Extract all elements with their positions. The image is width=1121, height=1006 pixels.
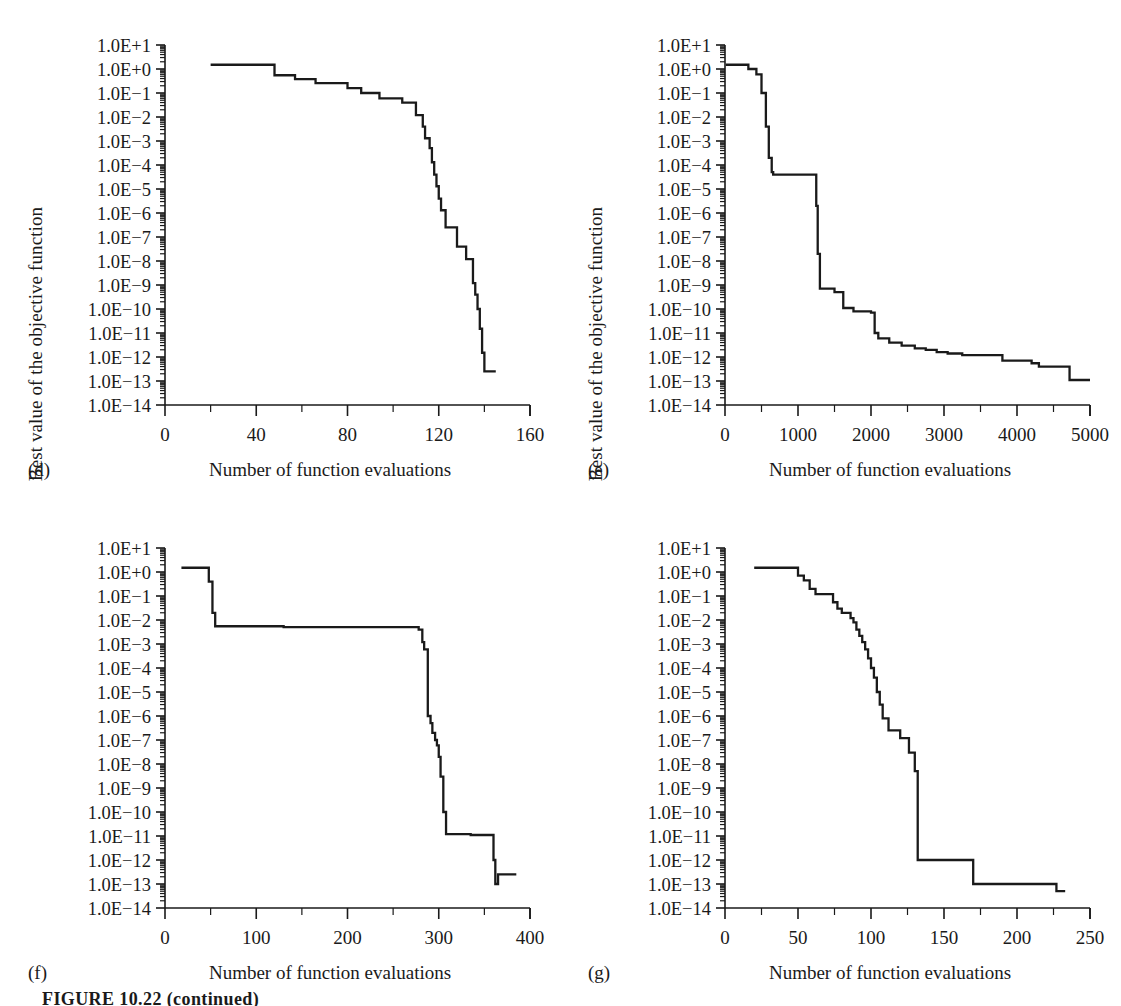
svg-text:1.0E+0: 1.0E+0 bbox=[657, 563, 711, 583]
svg-text:1.0E−9: 1.0E−9 bbox=[97, 779, 151, 799]
svg-text:1.0E+1: 1.0E+1 bbox=[97, 36, 151, 56]
svg-text:1.0E−6: 1.0E−6 bbox=[657, 707, 711, 727]
chart-panel-g: 1.0E+11.0E+01.0E−11.0E−21.0E−31.0E−41.0E… bbox=[560, 503, 1120, 1006]
svg-text:1.0E−2: 1.0E−2 bbox=[97, 108, 151, 128]
svg-text:0: 0 bbox=[720, 927, 730, 948]
svg-text:1.0E−2: 1.0E−2 bbox=[657, 611, 711, 631]
y-axis-label-g: Best value of the objective function bbox=[582, 109, 608, 529]
svg-text:300: 300 bbox=[425, 927, 454, 948]
svg-text:1000: 1000 bbox=[779, 424, 817, 445]
y-axis-label-d: Best value of the objective function bbox=[22, 0, 48, 26]
x-axis-label-e: Number of function evaluations bbox=[680, 459, 1100, 481]
panel-letter-g: (g) bbox=[588, 962, 610, 984]
chart-svg-d: 1.0E+11.0E+01.0E−11.0E−21.0E−31.0E−41.0E… bbox=[0, 0, 560, 455]
x-axis-label-d: Number of function evaluations bbox=[120, 459, 540, 481]
svg-text:1.0E−8: 1.0E−8 bbox=[657, 252, 711, 272]
svg-text:1.0E−14: 1.0E−14 bbox=[88, 899, 151, 919]
svg-text:120: 120 bbox=[425, 424, 454, 445]
svg-text:1.0E−4: 1.0E−4 bbox=[657, 156, 711, 176]
svg-text:1.0E−10: 1.0E−10 bbox=[88, 300, 151, 320]
svg-text:1.0E−8: 1.0E−8 bbox=[97, 252, 151, 272]
svg-text:1.0E−12: 1.0E−12 bbox=[88, 851, 151, 871]
svg-text:1.0E−7: 1.0E−7 bbox=[657, 228, 711, 248]
svg-text:1.0E+0: 1.0E+0 bbox=[97, 563, 151, 583]
y-axis-label-text-d: Best value of the objective function bbox=[25, 0, 47, 26]
svg-text:1.0E−4: 1.0E−4 bbox=[97, 659, 151, 679]
figure-panel-grid: 1.0E+11.0E+01.0E−11.0E−21.0E−31.0E−41.0E… bbox=[0, 0, 1121, 1006]
svg-text:0: 0 bbox=[720, 424, 730, 445]
y-axis-label-f: Best value of the objective function bbox=[22, 109, 48, 529]
svg-text:1.0E−4: 1.0E−4 bbox=[97, 156, 151, 176]
svg-text:50: 50 bbox=[789, 927, 808, 948]
svg-text:5000: 5000 bbox=[1071, 424, 1109, 445]
svg-text:0: 0 bbox=[160, 927, 170, 948]
svg-text:160: 160 bbox=[516, 424, 545, 445]
svg-text:1.0E−5: 1.0E−5 bbox=[97, 683, 151, 703]
svg-text:100: 100 bbox=[242, 927, 271, 948]
svg-text:0: 0 bbox=[160, 424, 170, 445]
svg-text:1.0E−11: 1.0E−11 bbox=[88, 324, 151, 344]
chart-svg-g: 1.0E+11.0E+01.0E−11.0E−21.0E−31.0E−41.0E… bbox=[560, 503, 1120, 958]
svg-text:1.0E+1: 1.0E+1 bbox=[97, 539, 151, 559]
svg-text:1.0E−6: 1.0E−6 bbox=[97, 707, 151, 727]
svg-text:1.0E+0: 1.0E+0 bbox=[97, 60, 151, 80]
svg-text:1.0E−8: 1.0E−8 bbox=[97, 755, 151, 775]
svg-text:1.0E−11: 1.0E−11 bbox=[648, 324, 711, 344]
svg-text:1.0E−10: 1.0E−10 bbox=[648, 803, 711, 823]
svg-text:1.0E−1: 1.0E−1 bbox=[657, 587, 711, 607]
svg-text:1.0E−9: 1.0E−9 bbox=[657, 276, 711, 296]
svg-text:1.0E+1: 1.0E+1 bbox=[657, 36, 711, 56]
svg-text:1.0E−7: 1.0E−7 bbox=[97, 731, 151, 751]
svg-text:1.0E−9: 1.0E−9 bbox=[657, 779, 711, 799]
y-axis-label-text-g: Best value of the objective function bbox=[585, 159, 607, 529]
svg-text:200: 200 bbox=[1003, 927, 1032, 948]
svg-text:1.0E−1: 1.0E−1 bbox=[97, 84, 151, 104]
panel-letter-f: (f) bbox=[28, 962, 47, 984]
svg-text:3000: 3000 bbox=[925, 424, 963, 445]
svg-text:1.0E−11: 1.0E−11 bbox=[648, 827, 711, 847]
chart-svg-f: 1.0E+11.0E+01.0E−11.0E−21.0E−31.0E−41.0E… bbox=[0, 503, 560, 958]
chart-panel-d: 1.0E+11.0E+01.0E−11.0E−21.0E−31.0E−41.0E… bbox=[0, 0, 560, 503]
chart-panel-f: 1.0E+11.0E+01.0E−11.0E−21.0E−31.0E−41.0E… bbox=[0, 503, 560, 1006]
svg-text:1.0E−13: 1.0E−13 bbox=[648, 875, 711, 895]
svg-text:400: 400 bbox=[516, 927, 545, 948]
svg-text:250: 250 bbox=[1076, 927, 1105, 948]
svg-text:2000: 2000 bbox=[852, 424, 890, 445]
svg-text:1.0E−11: 1.0E−11 bbox=[88, 827, 151, 847]
svg-text:1.0E+1: 1.0E+1 bbox=[657, 539, 711, 559]
svg-text:1.0E−6: 1.0E−6 bbox=[657, 204, 711, 224]
svg-text:1.0E−12: 1.0E−12 bbox=[648, 851, 711, 871]
svg-text:1.0E−1: 1.0E−1 bbox=[97, 587, 151, 607]
svg-text:1.0E−8: 1.0E−8 bbox=[657, 755, 711, 775]
svg-text:1.0E−7: 1.0E−7 bbox=[657, 731, 711, 751]
svg-text:1.0E−2: 1.0E−2 bbox=[97, 611, 151, 631]
svg-text:1.0E−5: 1.0E−5 bbox=[657, 683, 711, 703]
svg-text:40: 40 bbox=[247, 424, 266, 445]
svg-text:1.0E−3: 1.0E−3 bbox=[97, 635, 151, 655]
y-axis-label-text-f: Best value of the objective function bbox=[25, 159, 47, 529]
svg-text:1.0E−3: 1.0E−3 bbox=[97, 132, 151, 152]
svg-text:1.0E−12: 1.0E−12 bbox=[88, 348, 151, 368]
x-axis-label-g: Number of function evaluations bbox=[680, 962, 1100, 984]
y-axis-label-text-e: Best value of the objective function bbox=[585, 0, 607, 26]
convergence-curve bbox=[211, 65, 496, 372]
svg-text:1.0E−6: 1.0E−6 bbox=[97, 204, 151, 224]
svg-text:1.0E−13: 1.0E−13 bbox=[648, 372, 711, 392]
svg-text:100: 100 bbox=[857, 927, 886, 948]
svg-text:1.0E−1: 1.0E−1 bbox=[657, 84, 711, 104]
svg-text:4000: 4000 bbox=[998, 424, 1036, 445]
svg-text:1.0E+0: 1.0E+0 bbox=[657, 60, 711, 80]
svg-text:150: 150 bbox=[930, 927, 959, 948]
convergence-curve bbox=[754, 568, 1065, 891]
svg-text:1.0E−10: 1.0E−10 bbox=[648, 300, 711, 320]
svg-text:1.0E−4: 1.0E−4 bbox=[657, 659, 711, 679]
svg-text:1.0E−2: 1.0E−2 bbox=[657, 108, 711, 128]
svg-text:1.0E−5: 1.0E−5 bbox=[657, 180, 711, 200]
x-axis-label-f: Number of function evaluations bbox=[120, 962, 540, 984]
figure-caption: FIGURE 10.22 (continued) bbox=[42, 989, 259, 1006]
svg-text:80: 80 bbox=[338, 424, 357, 445]
chart-svg-e: 1.0E+11.0E+01.0E−11.0E−21.0E−31.0E−41.0E… bbox=[560, 0, 1120, 455]
svg-text:1.0E−10: 1.0E−10 bbox=[88, 803, 151, 823]
svg-text:1.0E−3: 1.0E−3 bbox=[657, 635, 711, 655]
svg-text:200: 200 bbox=[333, 927, 362, 948]
